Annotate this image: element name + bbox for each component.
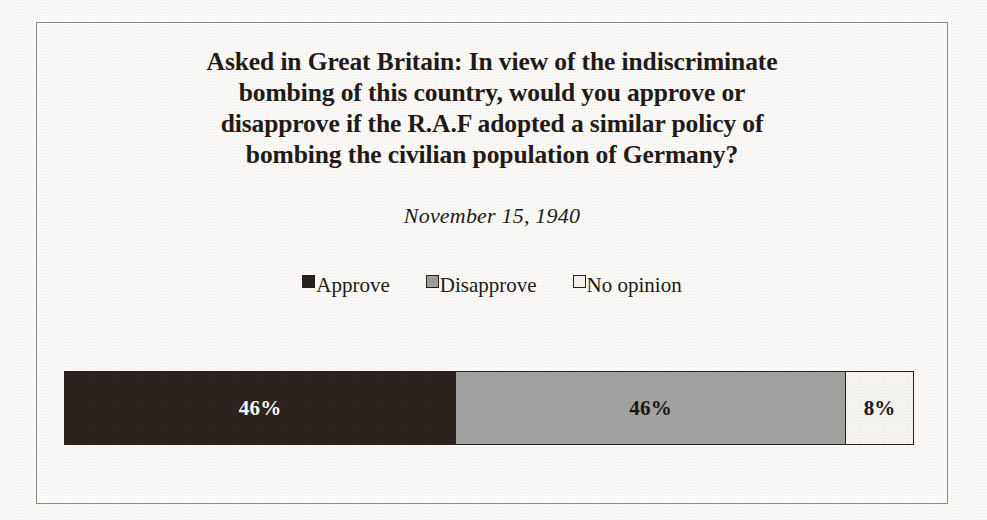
legend-item-disapprove[interactable]: Disapprove: [426, 273, 537, 298]
chart-title-line-2: bombing of this country, would you appro…: [36, 77, 948, 108]
chart-subtitle-date: November 15, 1940: [36, 203, 948, 229]
legend-label-approve: Approve: [316, 273, 389, 298]
bar-segment-disapprove[interactable]: 46%: [455, 372, 845, 444]
legend-swatch-disapprove-icon: [426, 275, 439, 288]
legend-item-no-opinion[interactable]: No opinion: [573, 273, 682, 298]
bar-segment-approve-value: 46%: [239, 396, 282, 421]
chart-title-line-4: bombing the civilian population of Germa…: [36, 139, 948, 170]
bar-segment-no-opinion[interactable]: 8%: [845, 372, 913, 444]
chart-legend: Approve Disapprove No opinion: [36, 273, 948, 298]
legend-swatch-approve-icon: [302, 275, 315, 288]
bar-segment-disapprove-value: 46%: [629, 396, 672, 421]
stacked-bar: 46% 46% 8%: [64, 371, 914, 445]
poll-chart-figure: Asked in Great Britain: In view of the i…: [0, 0, 987, 520]
chart-title-line-3: disapprove if the R.A.F adopted a simila…: [36, 108, 948, 139]
legend-item-approve[interactable]: Approve: [302, 273, 389, 298]
legend-swatch-no-opinion-icon: [573, 275, 586, 288]
chart-title: Asked in Great Britain: In view of the i…: [36, 46, 948, 170]
legend-label-disapprove: Disapprove: [440, 273, 537, 298]
bar-segment-no-opinion-value: 8%: [864, 396, 896, 421]
bar-segment-approve[interactable]: 46%: [65, 372, 455, 444]
legend-label-no-opinion: No opinion: [587, 273, 682, 298]
chart-title-line-1: Asked in Great Britain: In view of the i…: [36, 46, 948, 77]
stacked-bar-plot-area: 46% 46% 8%: [64, 371, 914, 445]
